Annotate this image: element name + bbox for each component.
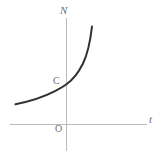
y-axis-label: N	[60, 5, 67, 16]
graph-canvas	[0, 0, 164, 155]
y-intercept-label: C	[53, 76, 60, 86]
x-axis-label: t	[149, 114, 152, 125]
origin-label: O	[55, 124, 62, 134]
exponential-growth-figure: N t O C	[0, 0, 164, 155]
exponential-curve	[16, 27, 93, 105]
